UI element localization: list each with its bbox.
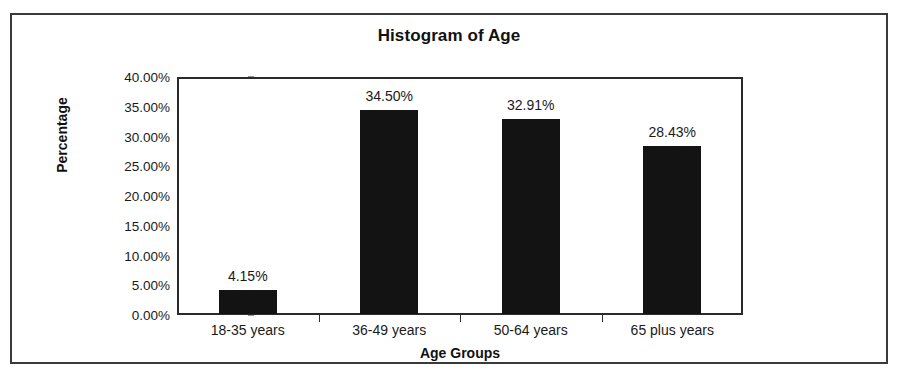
bar xyxy=(643,146,701,314)
x-category-label: 50-64 years xyxy=(451,322,611,338)
y-tick-label: 10.00% xyxy=(90,248,170,263)
y-axis-title: Percentage xyxy=(54,65,70,205)
y-tick-label: 35.00% xyxy=(90,99,170,114)
chart-title: Histogram of Age xyxy=(12,26,886,46)
bar-value-label: 32.91% xyxy=(471,97,591,113)
y-tick-label: 15.00% xyxy=(90,218,170,233)
bar xyxy=(360,110,418,314)
chart-frame: Histogram of Age Percentage 0.00%5.00%10… xyxy=(10,13,888,364)
x-category-label: 65 plus years xyxy=(592,322,752,338)
x-axis-title: Age Groups xyxy=(177,345,743,361)
bar-value-label: 34.50% xyxy=(329,88,449,104)
x-tick-mark xyxy=(319,315,320,322)
y-tick-label: 0.00% xyxy=(90,308,170,323)
x-tick-mark xyxy=(602,315,603,322)
bar-value-label: 28.43% xyxy=(612,124,732,140)
x-tick-mark xyxy=(460,315,461,322)
y-tick-label: 30.00% xyxy=(90,129,170,144)
y-tick-label: 5.00% xyxy=(90,278,170,293)
x-category-label: 36-49 years xyxy=(309,322,469,338)
y-tick-label: 40.00% xyxy=(90,70,170,85)
y-axis-tick-labels: 0.00%5.00%10.00%15.00%20.00%25.00%30.00%… xyxy=(90,77,170,315)
y-tick-label: 25.00% xyxy=(90,159,170,174)
y-tick-label: 20.00% xyxy=(90,189,170,204)
bar xyxy=(502,119,560,314)
bar xyxy=(219,290,277,314)
bar-value-label: 4.15% xyxy=(188,268,308,284)
x-category-label: 18-35 years xyxy=(168,322,328,338)
